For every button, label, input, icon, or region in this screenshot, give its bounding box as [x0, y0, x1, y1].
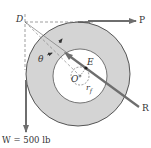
label-E: E [87, 58, 94, 67]
label-r-subscript: f [90, 87, 92, 94]
label-W: W = 500 lb [2, 136, 50, 145]
label-O: O [71, 75, 78, 84]
label-rf: rf [86, 84, 92, 94]
label-D: D [16, 15, 23, 24]
label-P: P [139, 16, 145, 25]
label-theta: θ [38, 55, 43, 64]
label-R: R [142, 104, 149, 113]
